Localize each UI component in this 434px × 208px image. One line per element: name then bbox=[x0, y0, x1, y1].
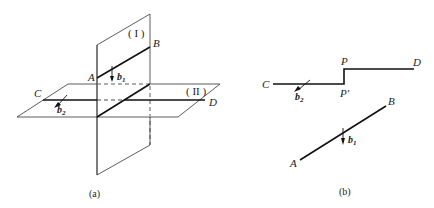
point-b-label: B bbox=[153, 37, 160, 49]
vector-b1-label: b1 bbox=[117, 71, 126, 84]
point-b-label: B bbox=[388, 95, 395, 107]
vector-b1-arrow-icon bbox=[341, 128, 345, 145]
plane-1-label: ( I ) bbox=[128, 27, 145, 40]
figure-a: ( I ) ( II ) B A C D b1 b2 (a) bbox=[17, 14, 220, 200]
point-c-label: C bbox=[262, 78, 270, 90]
point-c-label: C bbox=[34, 87, 42, 99]
point-d-label: D bbox=[208, 96, 217, 108]
diagram-canvas: ( I ) ( II ) B A C D b1 b2 (a) C P P′ D … bbox=[0, 0, 434, 208]
plane-2-label: ( II ) bbox=[186, 85, 206, 98]
vector-b2-label: b2 bbox=[295, 91, 304, 104]
vector-b1-label: b1 bbox=[348, 134, 357, 147]
point-d-label: D bbox=[412, 56, 421, 68]
line-cd-projection bbox=[273, 69, 414, 84]
caption-b: (b) bbox=[339, 186, 351, 198]
point-a-label: A bbox=[87, 71, 95, 83]
point-p-label: P bbox=[340, 55, 348, 67]
figure-b: C P P′ D B A b2 b1 (b) bbox=[262, 55, 421, 198]
point-p-prime-label: P′ bbox=[339, 87, 350, 99]
caption-a: (a) bbox=[89, 188, 100, 200]
line-ab bbox=[97, 47, 150, 78]
point-a-label: A bbox=[289, 157, 297, 169]
